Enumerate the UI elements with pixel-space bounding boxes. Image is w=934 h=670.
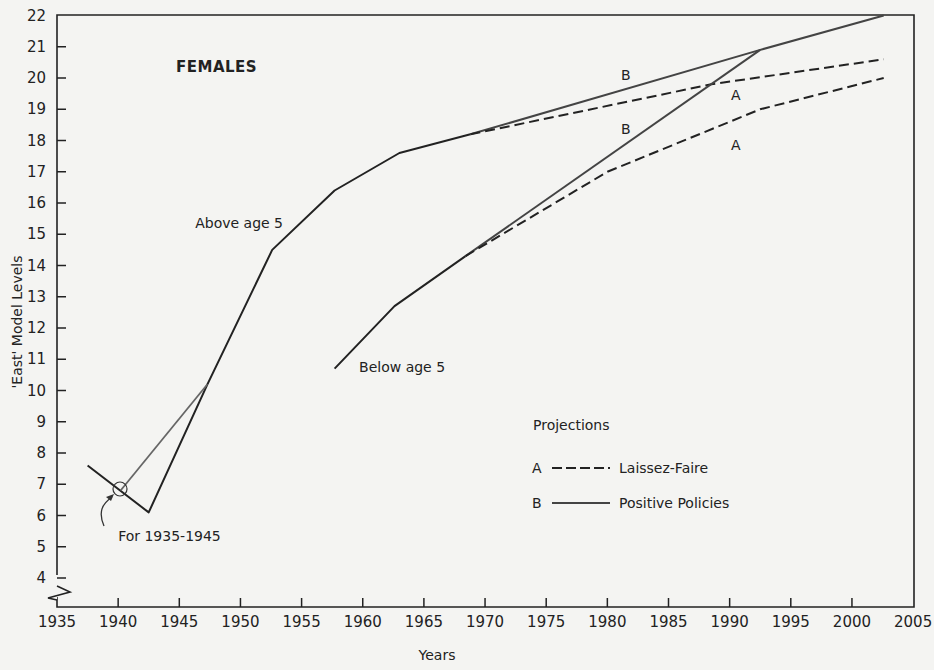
- annotation: Below age 5: [359, 359, 445, 375]
- y-tick-label: 21: [27, 38, 46, 56]
- x-tick-label: 1945: [160, 613, 198, 631]
- legend-entry-b: B Positive Policies: [532, 495, 729, 511]
- series-labels: BABA: [621, 67, 741, 153]
- series-line: [470, 59, 883, 134]
- series-label: B: [621, 67, 631, 83]
- x-tick-label: 2005: [894, 613, 932, 631]
- legend-label-a: Laissez-Faire: [619, 460, 708, 476]
- y-tick-label: 6: [36, 507, 46, 525]
- x-tick-label: 1940: [99, 613, 137, 631]
- arrowhead-icon: [106, 494, 114, 501]
- callout-arrow-icon: [101, 497, 112, 526]
- legend-entry-a: A Laissez-Faire: [532, 460, 708, 476]
- series-line: [470, 16, 883, 135]
- series-line: [88, 134, 471, 512]
- x-tick-label: 1950: [221, 613, 259, 631]
- x-tick-label: 1980: [588, 613, 626, 631]
- series-line: [121, 384, 208, 490]
- x-tick-label: 1955: [283, 613, 321, 631]
- series-line: [335, 256, 466, 369]
- legend-label-b: Positive Policies: [619, 495, 729, 511]
- annotation: For 1935-1945: [118, 528, 221, 544]
- y-tick-label: 4: [36, 569, 46, 587]
- annotations: Above age 5Below age 5For 1935-1945: [118, 215, 445, 544]
- x-tick-label: 1990: [711, 613, 749, 631]
- legend-key-a: A: [532, 460, 542, 476]
- y-tick-label: 7: [36, 475, 46, 493]
- y-axis-ticks: 45678910111213141516171819202122: [27, 7, 66, 588]
- circle-marker-icon: [113, 482, 127, 496]
- y-tick-label: 17: [27, 163, 46, 181]
- y-tick-label: 22: [27, 7, 46, 25]
- x-tick-label: 1985: [649, 613, 687, 631]
- legend-key-b: B: [532, 495, 542, 511]
- series-line: [466, 78, 884, 256]
- x-tick-label: 1970: [466, 613, 504, 631]
- series-label: A: [731, 137, 741, 153]
- x-axis-label: Years: [418, 647, 456, 663]
- series-lines: [88, 16, 884, 513]
- y-tick-label: 20: [27, 69, 46, 87]
- x-tick-label: 1935: [38, 613, 76, 631]
- y-tick-label: 12: [27, 319, 46, 337]
- chart: 45678910111213141516171819202122 1935194…: [0, 0, 934, 670]
- y-tick-label: 11: [27, 350, 46, 368]
- annotation: Above age 5: [195, 215, 283, 231]
- y-tick-label: 10: [27, 382, 46, 400]
- series-label: B: [621, 121, 631, 137]
- axis-break-icon: [48, 586, 70, 600]
- chart-title: FEMALES: [176, 58, 257, 76]
- y-tick-label: 13: [27, 288, 46, 306]
- y-tick-label: 14: [27, 257, 46, 275]
- x-tick-label: 1965: [405, 613, 443, 631]
- series-label: A: [731, 87, 741, 103]
- y-tick-label: 5: [36, 538, 46, 556]
- x-tick-label: 1960: [344, 613, 382, 631]
- y-tick-label: 8: [36, 444, 46, 462]
- y-axis-label: 'East' Model Levels: [9, 255, 25, 388]
- y-tick-label: 9: [36, 413, 46, 431]
- series-line: [466, 50, 761, 256]
- legend: Projections A Laissez-Faire B Positive P…: [532, 417, 729, 511]
- y-tick-label: 16: [27, 194, 46, 212]
- y-tick-label: 15: [27, 225, 46, 243]
- y-tick-label: 18: [27, 132, 46, 150]
- x-tick-label: 1995: [772, 613, 810, 631]
- y-tick-label: 19: [27, 100, 46, 118]
- x-axis-ticks: 1935194019451950195519601965197019751980…: [38, 598, 932, 631]
- x-tick-label: 1975: [527, 613, 565, 631]
- x-tick-label: 2000: [833, 613, 871, 631]
- legend-title: Projections: [533, 417, 610, 433]
